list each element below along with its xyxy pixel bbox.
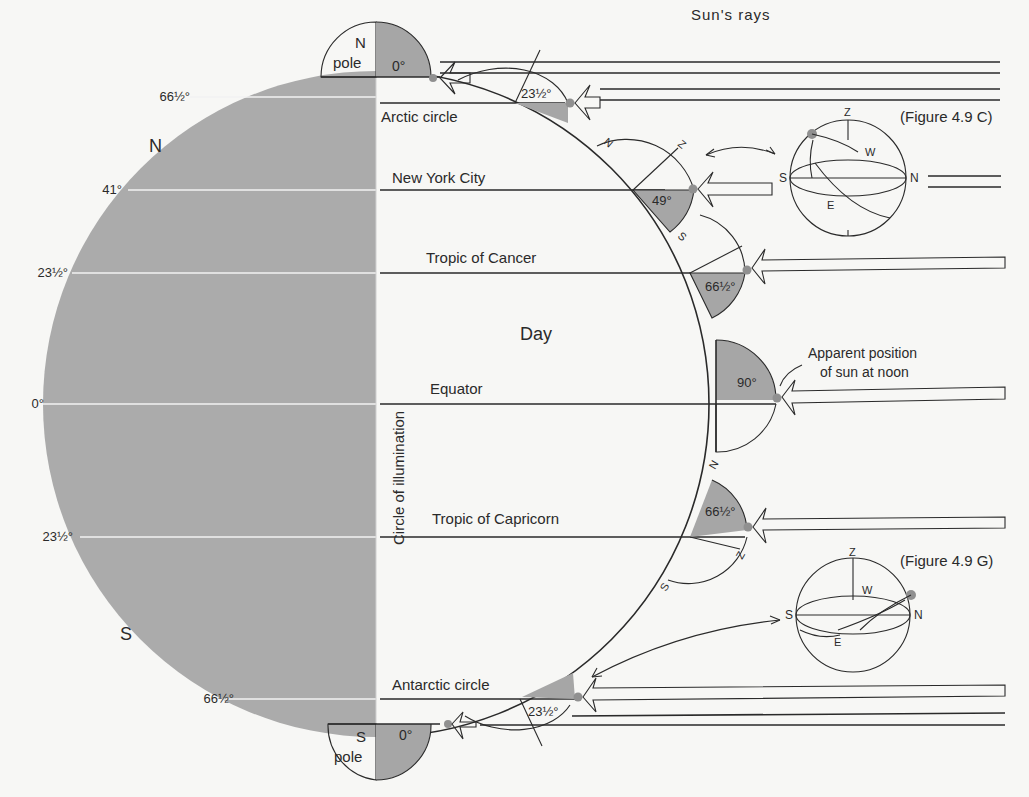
lat-label-66n: 66½° <box>159 89 190 104</box>
equator-gauge: 90° Apparent position of sun at noon <box>716 340 1005 452</box>
nyc-label: New York City <box>392 169 486 186</box>
tropic-of-capricorn-gauge: 66½° N Z S <box>657 458 1005 593</box>
lat-label-23s: 23½° <box>42 529 73 544</box>
svg-text:S: S <box>676 229 689 243</box>
figure-ref-c: (Figure 4.9 C) <box>900 108 993 125</box>
north-label-c: N <box>910 171 919 185</box>
annotation-line-2: of sun at noon <box>820 364 909 380</box>
lat-label-23n: 23½° <box>37 265 68 280</box>
capricorn-angle: 66½° <box>705 504 736 519</box>
equator-angle: 90° <box>737 375 757 390</box>
zenith-label-c: Z <box>844 106 851 118</box>
lat-label-66s: 66½° <box>203 691 234 706</box>
antarctic-gauge: 23½° <box>465 673 1005 746</box>
antarctic-circle-label: Antarctic circle <box>392 676 490 693</box>
nyc-angle: 49° <box>652 193 672 208</box>
celestial-sphere-g: Z S N E W (Figure 4.9 G) <box>592 546 993 677</box>
lat-label-0: 0° <box>32 396 44 411</box>
sun-rays-title: Sun's rays <box>691 6 771 23</box>
south-pole-label-1: S <box>356 728 366 745</box>
sun-angle-diagram: N pole 0° 23½° 49° N Z S 66½° <box>0 0 1029 797</box>
south-pole-angle: 0° <box>399 727 412 743</box>
figure-ref-g: (Figure 4.9 G) <box>900 552 993 569</box>
circle-of-illumination-label: Circle of illumination <box>390 411 407 545</box>
north-pole-angle: 0° <box>392 58 405 74</box>
south-label-c: S <box>779 171 787 185</box>
south-pole-label-2: pole <box>334 748 362 765</box>
north-label: N <box>149 136 162 156</box>
north-pole-label-2: pole <box>333 54 361 71</box>
svg-text:S: S <box>657 581 671 593</box>
lat-label-41n: 41° <box>102 182 122 197</box>
south-label: S <box>120 624 132 644</box>
north-label-g: N <box>914 608 923 622</box>
arctic-circle-label: Arctic circle <box>381 108 458 125</box>
tropic-of-cancer-label: Tropic of Cancer <box>426 249 536 266</box>
east-label-c: E <box>827 199 834 211</box>
antarctic-angle: 23½° <box>528 704 559 719</box>
south-label-g: S <box>785 608 793 622</box>
east-label-g: E <box>834 636 841 648</box>
svg-text:Z: Z <box>733 549 747 561</box>
zenith-label-g: Z <box>849 546 856 558</box>
svg-text:N: N <box>706 458 720 471</box>
equator-label: Equator <box>430 380 483 397</box>
arctic-angle: 23½° <box>521 86 552 101</box>
svg-text:N: N <box>602 135 616 149</box>
west-label-g: W <box>862 584 873 596</box>
cancer-angle: 66½° <box>705 279 736 294</box>
annotation-line-1: Apparent position <box>808 345 917 361</box>
north-pole-label-1: N <box>355 34 366 51</box>
day-label: Day <box>520 324 552 344</box>
west-label-c: W <box>865 146 876 158</box>
tropic-of-capricorn-label: Tropic of Capricorn <box>432 510 559 527</box>
celestial-sphere-c: Z S N E W (Figure 4.9 C) <box>706 106 1001 236</box>
arctic-gauge: 23½° <box>458 50 600 123</box>
